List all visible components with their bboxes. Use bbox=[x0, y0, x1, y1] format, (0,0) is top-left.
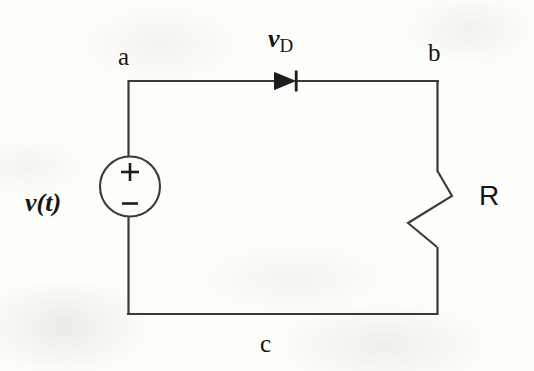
diode-triangle-icon bbox=[275, 73, 296, 90]
resistor-label: R bbox=[479, 182, 499, 210]
resistor-zigzag-icon bbox=[408, 171, 452, 247]
diode-voltage-subscript: D bbox=[280, 35, 294, 56]
diode-voltage-symbol: v bbox=[268, 24, 280, 53]
voltage-source-label: v(t) bbox=[25, 190, 61, 216]
node-label-b: b bbox=[428, 40, 441, 65]
node-label-a: a bbox=[118, 44, 129, 69]
circuit-diagram-canvas: a b c v(t) vD R bbox=[0, 0, 534, 371]
circuit-schematic-svg bbox=[0, 0, 534, 371]
plus-sign-icon bbox=[121, 163, 139, 181]
diode-voltage-label: vD bbox=[268, 26, 293, 55]
node-label-c: c bbox=[260, 331, 271, 356]
